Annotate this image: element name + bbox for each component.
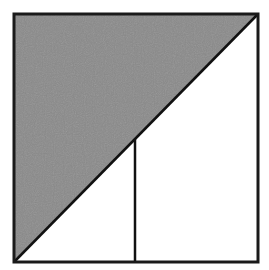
geometry-diagram bbox=[0, 0, 269, 270]
